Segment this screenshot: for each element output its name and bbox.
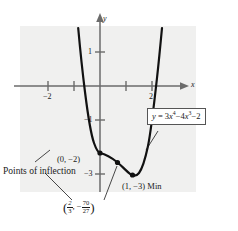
equation-equals: = — [158, 111, 163, 121]
label-points-of-inflection: Points of inflection — [3, 167, 76, 177]
equation-term3: 2 — [196, 111, 200, 121]
minimum-point — [130, 172, 135, 177]
fraction-y-denominator: 27 — [82, 208, 91, 215]
y-tick-label--3: −3 — [84, 170, 93, 178]
y-tick-label-1: 1 — [88, 48, 92, 56]
fraction-y-value: 7027 — [82, 200, 91, 215]
equation-op1: − — [176, 111, 181, 121]
label-minimum-point: (1, −3) Min — [122, 182, 162, 191]
x-axis-label: x — [191, 81, 195, 89]
x-tick-label--2: −2 — [43, 93, 52, 101]
y-axis-label: y — [103, 15, 107, 23]
equation-term2: 4x3 — [181, 111, 192, 121]
equation-lhs: y — [152, 111, 156, 121]
fraction-close-paren: ) — [90, 200, 94, 215]
label-inflection-fraction-point: (23, −7027) — [63, 200, 94, 215]
equation-term1: 3x4 — [165, 111, 176, 121]
figure-container: y x 1 −1 −3 −2 2 y = 3x4−4x3−2 (0, −2) P… — [0, 0, 238, 231]
inflection-point-two-thirds — [115, 160, 120, 165]
y-tick-label--1: −1 — [84, 116, 93, 124]
inflection-point-0-neg2 — [97, 150, 102, 155]
equation-label-box: y = 3x4−4x3−2 — [147, 108, 206, 125]
label-point-0-neg2: (0, −2) — [57, 155, 80, 164]
fraction-comma: , — [73, 201, 75, 211]
x-tick-label-2: 2 — [149, 93, 153, 101]
